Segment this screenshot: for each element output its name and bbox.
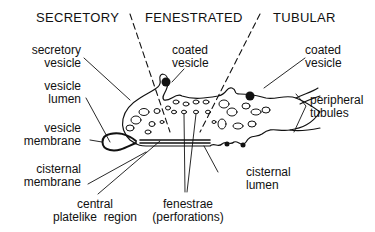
- region-fenestrated: FENESTRATED: [145, 10, 243, 25]
- label-cisternal-membrane: cisternal membrane: [0, 163, 81, 189]
- label-vesicle-membrane: vesicle membrane: [0, 122, 81, 148]
- divider-secretory-fenestrated: [130, 14, 170, 132]
- cisterna-outline: [123, 74, 320, 146]
- region-tubular: TUBULAR: [273, 10, 336, 25]
- label-coated-vesicle-center: coated vesicle: [172, 44, 209, 70]
- coated-vesicle-center: [162, 78, 171, 87]
- label-coated-vesicle-right: coated vesicle: [305, 44, 342, 70]
- label-vesicle-lumen: vesicle lumen: [0, 80, 81, 106]
- region-secretory: SECRETORY: [36, 10, 119, 25]
- label-secretory-vesicle: secretory vesicle: [0, 44, 81, 70]
- label-cisternal-lumen: cisternal lumen: [246, 166, 291, 192]
- divider-fenestrated-tubular: [200, 14, 260, 132]
- coated-vesicle-right: [246, 92, 255, 101]
- label-fenestrae: fenestrae (perforations): [143, 198, 233, 224]
- secretory-vesicle-bulb: [103, 133, 137, 150]
- label-central-platelike-region: central platelike region: [40, 198, 150, 224]
- label-peripheral-tubules: peripheral tubules: [310, 94, 363, 120]
